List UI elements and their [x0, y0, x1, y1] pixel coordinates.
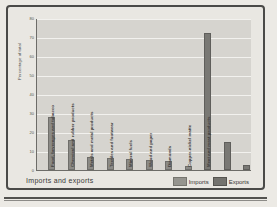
- bar: [224, 142, 231, 171]
- chart-footer: Imports and exports ImportsExports: [22, 175, 251, 191]
- legend-swatch: [173, 177, 187, 186]
- plot-area: Machinery, electrical goods, transportat…: [36, 19, 251, 171]
- page-rule: [4, 197, 267, 199]
- category-label: Wood and paper: [148, 133, 153, 167]
- category-label: Textiles and footwear: [109, 122, 114, 167]
- y-tick-label: 20: [22, 131, 34, 135]
- y-tick-label: 10: [22, 150, 34, 154]
- category-label: Chemical and rubber products: [70, 103, 75, 167]
- figure-page: Percentage of total 01020304050607080 Ma…: [0, 0, 277, 207]
- category-label: Copper-nickel matte: [187, 125, 192, 167]
- category-label: Metals and metal products: [89, 112, 94, 167]
- y-axis-ticks: 01020304050607080: [22, 19, 34, 171]
- legend-label: Imports: [189, 179, 209, 185]
- bar-slot: Meat and meat products: [212, 19, 231, 170]
- y-tick-label: 80: [22, 17, 34, 21]
- y-axis-title: Percentage of total: [17, 23, 22, 101]
- y-tick-label: 70: [22, 36, 34, 40]
- legend: ImportsExports: [173, 177, 249, 186]
- y-tick-label: 0: [22, 169, 34, 173]
- bar-group: Machinery, electrical goods, transportat…: [37, 19, 251, 170]
- y-tick-label: 40: [22, 93, 34, 97]
- category-label: Food, beverages and tobacco: [50, 105, 55, 167]
- bar: [243, 165, 250, 170]
- category-label: Diamonds: [167, 146, 172, 167]
- bar-slot: [232, 19, 251, 170]
- legend-item[interactable]: Imports: [173, 177, 209, 186]
- page-rule-shadow: [4, 200, 267, 201]
- y-tick-label: 60: [22, 55, 34, 59]
- category-label: Mineral fuels: [128, 140, 133, 167]
- category-label: Meat and meat products: [206, 116, 211, 167]
- y-tick-label: 50: [22, 74, 34, 78]
- legend-label: Exports: [229, 179, 249, 185]
- legend-swatch: [213, 177, 227, 186]
- y-tick-label: 30: [22, 112, 34, 116]
- chart-title: Imports and exports: [26, 177, 94, 184]
- chart-frame: Percentage of total 01020304050607080 Ma…: [6, 5, 265, 190]
- legend-item[interactable]: Exports: [213, 177, 249, 186]
